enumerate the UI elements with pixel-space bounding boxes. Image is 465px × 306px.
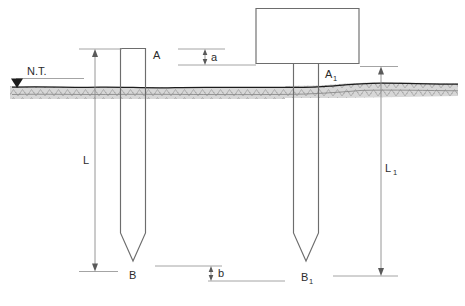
- pile-right-tip-label-subscript: 1: [309, 277, 313, 286]
- dimension-a-label: a: [211, 51, 218, 63]
- ground-layer: [8, 80, 463, 100]
- dimension-a-arrow-top: [203, 49, 208, 55]
- footing-cap-block: [256, 9, 359, 64]
- dimension-L1-arrow-top: [378, 67, 384, 75]
- dimension-L-arrow-bottom: [92, 264, 98, 272]
- driven-pile-left: A B: [121, 49, 162, 281]
- dimension-a: a: [178, 49, 256, 65]
- dimension-b: b: [155, 266, 285, 281]
- dimension-L1-label-subscript: 1: [393, 168, 397, 177]
- dimension-L-label: L: [83, 154, 89, 166]
- dimension-b-arrow-top: [209, 266, 214, 272]
- pile-right-top-label: A: [325, 68, 333, 80]
- pile-right-tip-label: B: [301, 271, 308, 283]
- pile-foundation-section-figure: N.T. A B A 1 B 1: [0, 0, 465, 306]
- natural-terrain-marker-group: N.T.: [11, 65, 84, 88]
- dimension-L: L: [79, 49, 122, 272]
- dimension-L-arrow-top: [92, 49, 98, 57]
- pile-left-tip-label: B: [129, 269, 136, 281]
- pile-left-outline: [121, 49, 146, 262]
- footing-cap-outline: [256, 9, 359, 64]
- dimension-L1-arrow-bottom: [378, 268, 384, 276]
- pile-right-top-label-subscript: 1: [333, 74, 337, 83]
- dimension-L1-label: L: [385, 162, 391, 174]
- dimension-b-label: b: [218, 267, 224, 279]
- dimension-b-arrow-bottom: [209, 275, 214, 281]
- pile-left-top-label: A: [153, 49, 161, 61]
- nt-label: N.T.: [27, 65, 47, 77]
- dimension-a-arrow-bottom: [203, 59, 208, 65]
- diagram-canvas: N.T. A B A 1 B 1: [0, 0, 465, 306]
